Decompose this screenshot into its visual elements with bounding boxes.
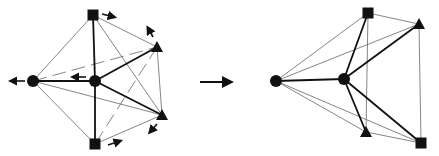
circle-node bbox=[270, 75, 282, 87]
triangle-node bbox=[360, 126, 372, 137]
graph-edge bbox=[93, 15, 95, 81]
triangle-node bbox=[151, 41, 163, 52]
graph-edge bbox=[344, 79, 421, 143]
graph-edge bbox=[366, 13, 368, 132]
motion-arrow-icon bbox=[102, 14, 114, 17]
circle-node bbox=[27, 75, 39, 87]
graph-edge bbox=[276, 79, 344, 81]
square-node bbox=[416, 138, 427, 149]
graph-transformation-diagram bbox=[0, 0, 439, 156]
right-graph bbox=[270, 8, 427, 149]
graph-edge bbox=[33, 15, 93, 81]
graph-edge bbox=[157, 47, 162, 115]
square-node bbox=[363, 8, 374, 19]
circle-node bbox=[89, 75, 101, 87]
motion-arrow-icon bbox=[108, 141, 120, 145]
square-node bbox=[90, 139, 101, 150]
graph-edge bbox=[93, 15, 162, 115]
graph-edge bbox=[276, 24, 419, 81]
square-node bbox=[88, 10, 99, 21]
left-graph bbox=[11, 10, 168, 150]
graph-edge bbox=[95, 47, 157, 81]
graph-edge bbox=[95, 81, 162, 115]
graph-edge bbox=[366, 132, 421, 143]
motion-arrow-icon bbox=[150, 124, 157, 132]
circle-node bbox=[338, 73, 350, 85]
graph-edge bbox=[368, 13, 419, 24]
triangle-node bbox=[156, 109, 168, 120]
graph-edge bbox=[276, 81, 366, 132]
graph-edge bbox=[93, 15, 157, 47]
motion-arrow-icon bbox=[148, 28, 153, 37]
graph-edge bbox=[419, 24, 421, 143]
graph-edge bbox=[33, 81, 95, 144]
graph-edge bbox=[344, 24, 419, 79]
graph-edge bbox=[344, 79, 366, 132]
